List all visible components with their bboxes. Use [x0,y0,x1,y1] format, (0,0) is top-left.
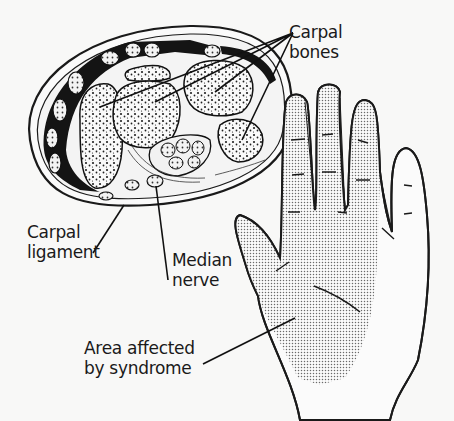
label-line: Carpal [289,22,342,42]
label-median-nerve: Median nerve [172,250,232,290]
diagram-canvas: Carpal bones Carpal ligament Median nerv… [0,0,454,421]
label-line: Carpal [27,222,100,242]
label-line: ligament [27,242,100,262]
label-carpal-bones: Carpal bones [289,22,342,62]
label-area-affected: Area affected by syndrome [84,338,195,378]
label-carpal-ligament: Carpal ligament [27,222,100,262]
label-line: bones [289,42,342,62]
diagram-artwork [0,0,454,421]
label-line: by syndrome [84,358,195,378]
label-line: nerve [172,270,232,290]
label-line: Area affected [84,338,195,358]
label-line: Median [172,250,232,270]
